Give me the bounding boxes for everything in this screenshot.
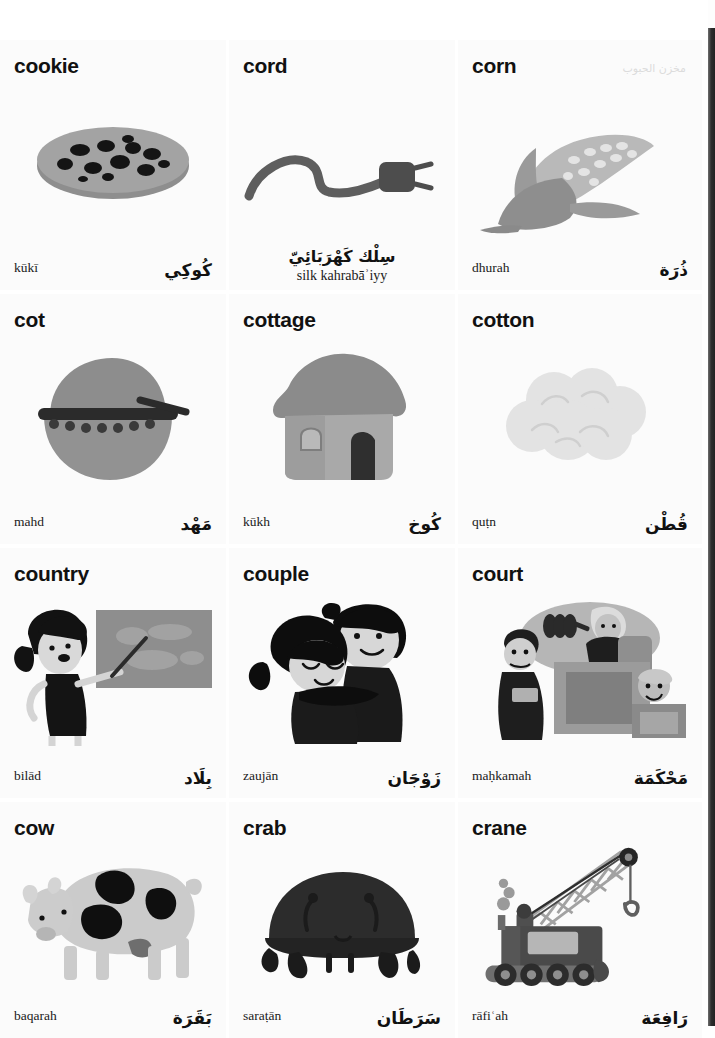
transliteration: bilād [14, 768, 41, 784]
illustration-country [0, 592, 226, 746]
arabic-word: بَقَرَة [173, 1008, 212, 1028]
illustration-court [458, 592, 702, 746]
entry-footer: baqarah بَقَرَة [0, 998, 226, 1032]
entry-footer: rāfiʿah رَافِعَة [458, 998, 702, 1032]
transliteration: kūkī [14, 260, 38, 276]
headword: corn [472, 54, 516, 78]
headword: crane [472, 816, 527, 840]
entry-footer: mahd مَهْد [0, 504, 226, 538]
headword: country [14, 562, 89, 586]
arabic-word: قُطْن [645, 514, 688, 534]
transliteration: maḥkamah [472, 768, 531, 784]
entry-footer: saraṭān سَرَطَان [229, 998, 455, 1032]
entry-cell-cord[interactable]: cord سِلْك كَهْرَبَائِيّ silk kahrabāʾiy… [229, 40, 455, 290]
transliteration: zaujān [243, 768, 278, 784]
headword: cottage [243, 308, 316, 332]
arabic-word: مَهْد [180, 514, 212, 534]
illustration-crane [458, 846, 702, 986]
headword: cotton [472, 308, 534, 332]
entry-cell-corn[interactable]: corn مخزن الحبوب [458, 40, 702, 290]
arabic-word: بِلَاد [184, 768, 212, 788]
illustration-crab [229, 846, 455, 986]
arabic-word: ذُرَة [659, 260, 688, 280]
entry-cell-cot[interactable]: cot mahd مَهْد [0, 294, 226, 544]
headword: cord [243, 54, 287, 78]
headword: court [472, 562, 523, 586]
entry-cell-crab[interactable]: crab saraṭān [229, 802, 455, 1038]
transliteration: mahd [14, 514, 44, 530]
entry-cell-court[interactable]: court [458, 548, 702, 798]
entry-cell-cottage[interactable]: cottage kūkh كُوخ [229, 294, 455, 544]
entry-cell-country[interactable]: country [0, 548, 226, 798]
headword: crab [243, 816, 286, 840]
entry-cell-cookie[interactable]: cookie [0, 40, 226, 290]
headword: cow [14, 816, 54, 840]
entry-cell-couple[interactable]: couple [229, 548, 455, 798]
entry-footer: kūkh كُوخ [229, 504, 455, 538]
entry-footer: kūkī كُوكِي [0, 250, 226, 284]
page-gutter-shadow [708, 28, 715, 1026]
entry-footer: quṭn قُطْن [458, 504, 702, 538]
illustration-corn [458, 84, 702, 238]
transliteration: baqarah [14, 1008, 57, 1024]
illustration-cow [0, 846, 226, 986]
arabic-word: كُوخ [408, 514, 441, 534]
arabic-word: سَرَطَان [377, 1008, 441, 1028]
transliteration: saraṭān [243, 1008, 281, 1024]
entry-footer: dhurah ذُرَة [458, 250, 702, 284]
headword: cookie [14, 54, 79, 78]
arabic-word: كُوكِي [164, 260, 212, 280]
entry-footer: bilād بِلَاد [0, 758, 226, 792]
arabic-word: رَافِعَة [641, 1008, 688, 1028]
arabic-word: زَوْجَان [388, 768, 442, 788]
entry-cell-cotton[interactable]: cotton [458, 294, 702, 544]
transliteration: quṭn [472, 514, 496, 530]
illustration-cotton [458, 338, 702, 492]
entry-footer: zaujān زَوْجَان [229, 758, 455, 792]
arabic-word: مَحْكَمَة [634, 768, 688, 788]
illustration-cottage [229, 338, 455, 492]
transliteration: rāfiʿah [472, 1008, 508, 1024]
transliteration: kūkh [243, 514, 270, 530]
illustration-cookie [0, 84, 226, 238]
vocabulary-grid: cookie [0, 40, 708, 1026]
entry-footer: maḥkamah مَحْكَمَة [458, 758, 702, 792]
illustration-cord [229, 84, 455, 238]
headword: couple [243, 562, 309, 586]
illustration-couple [229, 592, 455, 746]
arabic-word: سِلْك كَهْرَبَائِيّ [229, 247, 455, 266]
transliteration: silk kahrabāʾiyy [229, 268, 455, 284]
bleed-through-ghost-text: مخزن الحبوب [622, 62, 686, 75]
page-top-margin [0, 0, 708, 40]
entry-footer: سِلْك كَهْرَبَائِيّ silk kahrabāʾiyy [229, 242, 455, 288]
entry-cell-cow[interactable]: cow [0, 802, 226, 1038]
illustration-cot [0, 338, 226, 492]
entry-cell-crane[interactable]: crane [458, 802, 702, 1038]
transliteration: dhurah [472, 260, 510, 276]
headword: cot [14, 308, 45, 332]
